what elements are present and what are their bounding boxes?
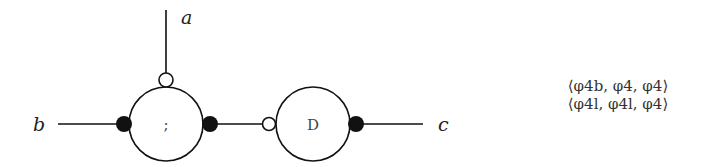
type-annotations: ⟨φ4b, φ4, φ4⟩ ⟨φ4l, φ4l, φ4⟩ — [553, 77, 683, 113]
node-D-label: D — [307, 116, 319, 134]
port-label-b: b — [33, 113, 45, 135]
node-seq-label: ; — [163, 116, 168, 134]
formula-line-2: ⟨φ4l, φ4l, φ4⟩ — [553, 95, 683, 113]
port-label-a: a — [181, 6, 192, 28]
open-connector-D-left — [263, 118, 276, 131]
port-label-c: c — [438, 113, 449, 135]
filled-connector-D-right — [348, 116, 364, 132]
filled-connector-seq-left — [116, 116, 132, 132]
filled-connector-seq-right — [202, 116, 218, 132]
open-connector-seq-top — [159, 73, 173, 87]
formula-line-1: ⟨φ4b, φ4, φ4⟩ — [553, 77, 683, 95]
